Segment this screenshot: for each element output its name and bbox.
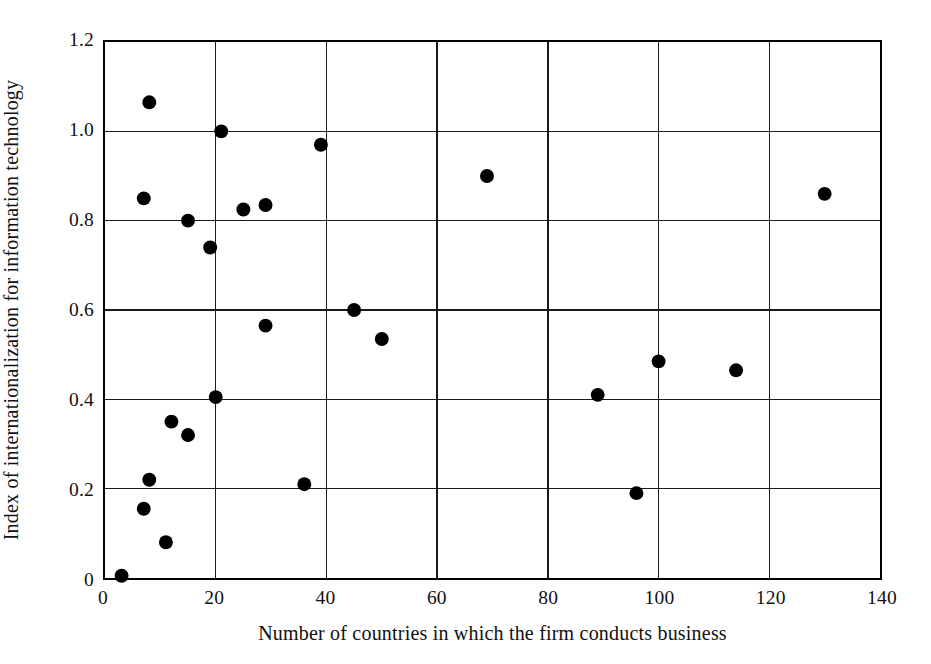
data-points-layer xyxy=(105,42,880,578)
data-point xyxy=(209,390,223,404)
y-tick-label: 0.4 xyxy=(69,390,94,410)
data-point xyxy=(181,428,195,442)
data-point xyxy=(629,486,643,500)
data-point xyxy=(137,191,151,205)
data-point xyxy=(480,169,494,183)
data-point xyxy=(347,303,361,317)
y-tick-label: 1.0 xyxy=(69,120,94,140)
data-point xyxy=(142,473,156,487)
x-axis-title: Number of countries in which the firm co… xyxy=(103,622,882,645)
data-point xyxy=(297,477,311,491)
data-point xyxy=(729,363,743,377)
data-point xyxy=(375,332,389,346)
data-point xyxy=(137,502,151,516)
y-tick-label: 0 xyxy=(84,570,94,590)
y-tick-label: 0.6 xyxy=(69,300,94,320)
y-tick-label: 1.2 xyxy=(69,30,94,50)
data-point xyxy=(591,388,605,402)
data-point xyxy=(259,198,273,212)
plot-area xyxy=(103,40,882,580)
data-point xyxy=(259,319,273,333)
data-point xyxy=(314,138,328,152)
data-point xyxy=(203,241,217,255)
x-tick-label: 20 xyxy=(204,588,224,608)
y-axis-title: Index of internationalization for inform… xyxy=(0,40,30,580)
x-tick-label: 140 xyxy=(867,588,897,608)
x-tick-label: 60 xyxy=(427,588,447,608)
y-axis-tick-labels: 00.20.40.60.81.01.2 xyxy=(42,40,94,580)
x-tick-label: 100 xyxy=(644,588,674,608)
data-point xyxy=(652,354,666,368)
data-point xyxy=(214,124,228,138)
data-point xyxy=(236,203,250,217)
y-tick-label: 0.8 xyxy=(69,210,94,230)
x-tick-label: 80 xyxy=(538,588,558,608)
data-point xyxy=(115,569,129,583)
data-point xyxy=(818,187,832,201)
x-tick-label: 0 xyxy=(98,588,108,608)
data-point xyxy=(181,214,195,228)
data-point xyxy=(142,95,156,109)
data-point xyxy=(159,535,173,549)
y-tick-label: 0.2 xyxy=(69,480,94,500)
scatter-plot-figure: 00.20.40.60.81.01.2 020406080100120140 N… xyxy=(0,0,931,664)
x-axis-tick-labels: 020406080100120140 xyxy=(103,588,882,616)
x-tick-label: 120 xyxy=(756,588,786,608)
data-point xyxy=(164,415,178,429)
x-tick-label: 40 xyxy=(316,588,336,608)
